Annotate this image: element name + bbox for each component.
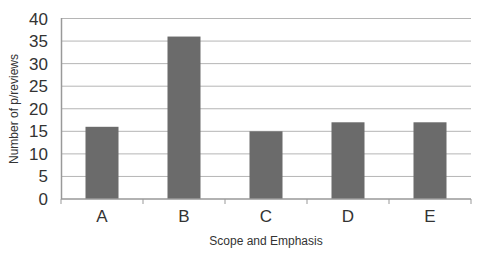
y-tick-label: 10 bbox=[29, 145, 48, 164]
x-category-label: E bbox=[424, 207, 435, 226]
y-tick-label: 40 bbox=[29, 10, 48, 29]
x-category-label: C bbox=[260, 207, 272, 226]
bar-E bbox=[414, 122, 447, 199]
x-category-label: A bbox=[96, 207, 108, 226]
y-tick-label: 30 bbox=[29, 55, 48, 74]
bar-B bbox=[168, 37, 201, 199]
y-axis-ticks: 0510152025303540 bbox=[29, 10, 48, 210]
x-axis-ticks: ABCDE bbox=[61, 199, 471, 226]
bar-A bbox=[86, 127, 119, 199]
y-tick-label: 0 bbox=[39, 190, 48, 209]
bar-D bbox=[332, 122, 365, 199]
x-category-label: B bbox=[178, 207, 189, 226]
y-tick-label: 15 bbox=[29, 122, 48, 141]
y-tick-label: 20 bbox=[29, 100, 48, 119]
y-tick-label: 25 bbox=[29, 77, 48, 96]
x-category-label: D bbox=[342, 207, 354, 226]
y-tick-label: 35 bbox=[29, 32, 48, 51]
bars bbox=[86, 37, 447, 199]
bar-chart: 0510152025303540 ABCDE Number of p/revie… bbox=[0, 0, 481, 254]
bar-C bbox=[250, 131, 283, 199]
x-axis-label: Scope and Emphasis bbox=[209, 234, 322, 248]
y-tick-label: 5 bbox=[39, 167, 48, 186]
y-axis-label: Number of p/reviews bbox=[7, 54, 21, 164]
